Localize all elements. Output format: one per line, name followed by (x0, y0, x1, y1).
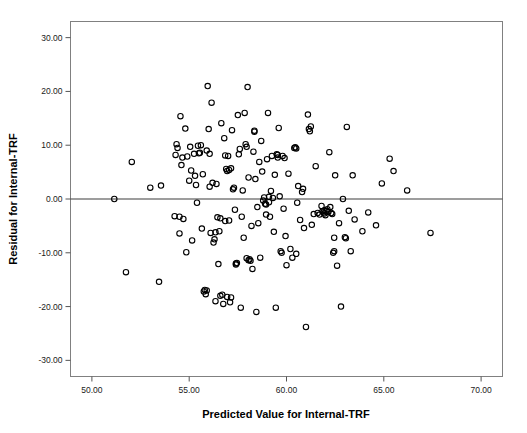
y-tick-label: -30.00 (38, 355, 62, 365)
x-tick-label: 50.00 (81, 385, 103, 395)
plot-canvas: 30.0020.0010.000.00-10.00-20.00-30.00 50… (0, 0, 527, 433)
x-tick-label: 60.00 (276, 385, 298, 395)
x-tick-label: 55.00 (179, 385, 201, 395)
y-tick-label: -20.00 (38, 302, 62, 312)
y-tick-label: 20.00 (41, 86, 63, 96)
x-tick-label: 65.00 (373, 385, 395, 395)
y-tick-label: -10.00 (38, 248, 62, 258)
y-tick-label: 10.00 (41, 140, 63, 150)
scatter-plot-figure: 30.0020.0010.000.00-10.00-20.00-30.00 50… (0, 0, 527, 433)
y-tick-label: 0.00 (46, 194, 63, 204)
x-tick-label: 70.00 (470, 385, 492, 395)
y-axis-title: Residual for Internal-TRF (7, 133, 19, 265)
y-tick-label: 30.00 (41, 33, 63, 43)
x-axis-title: Predicted Value for Internal-TRF (202, 408, 370, 420)
